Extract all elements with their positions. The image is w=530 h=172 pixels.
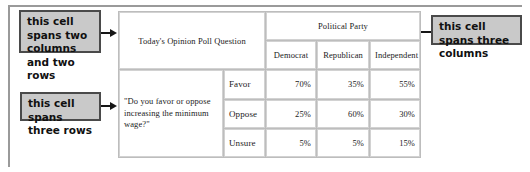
cell-row-label-favor: Favor (224, 70, 265, 98)
cell-oppose-independent: 30% (370, 100, 420, 128)
callout-two-columns-two-rows: this cell spans two columns and two rows (19, 10, 101, 53)
callout-three-rows: this cell spans three rows (20, 92, 101, 121)
cell-row-label-unsure: Unsure (224, 129, 265, 157)
cell-group-header-political-party: Political Party (266, 12, 420, 40)
cell-oppose-republican: 60% (317, 100, 369, 128)
cell-unsure-independent: 15% (370, 129, 420, 157)
cell-row-label-oppose: Oppose (224, 100, 265, 128)
cell-favor-republican: 35% (317, 70, 369, 98)
cell-unsure-republican: 5% (317, 129, 369, 157)
cell-favor-democrat: 70% (266, 70, 316, 98)
cell-oppose-democrat: 25% (266, 100, 316, 128)
poll-table-diagram: this cell spans two columns and two rows… (0, 0, 530, 172)
opinion-poll-table: Today's Opinion Poll Question Political … (118, 11, 421, 158)
frame-top-rule (8, 5, 522, 7)
cell-favor-independent: 55% (370, 70, 420, 98)
cell-column-header-independent: Independent (370, 41, 420, 69)
callout-three-columns: this cell spans three columns (431, 15, 522, 45)
frame-left-rule (8, 5, 10, 167)
cell-unsure-democrat: 5% (266, 129, 316, 157)
arrow-head-right-icon (110, 102, 117, 110)
table-row-header-top: Today's Opinion Poll Question Political … (119, 12, 420, 40)
cell-column-header-democrat: Democrat (266, 41, 316, 69)
cell-column-header-republican: Republican (317, 41, 369, 69)
cell-question-header: Today's Opinion Poll Question (119, 12, 265, 69)
arrow-head-right-icon (110, 29, 117, 37)
cell-question-text: "Do you favor or oppose increasing the m… (119, 70, 223, 157)
table-row-favor: "Do you favor or oppose increasing the m… (119, 70, 420, 98)
